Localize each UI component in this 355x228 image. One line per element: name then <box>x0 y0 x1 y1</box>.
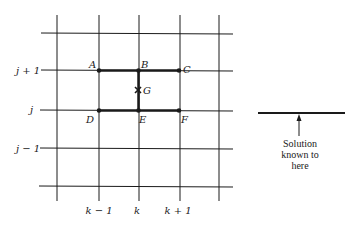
col-label-k-plus-1: k + 1 <box>164 205 191 216</box>
label-e: E <box>138 114 147 125</box>
grid-line-j-minus-2 <box>39 186 233 187</box>
label-f: F <box>180 114 189 125</box>
label-c: C <box>183 64 191 75</box>
node-a <box>97 68 102 73</box>
legend-line-2: known to <box>281 149 319 160</box>
col-label-k-minus-1: k − 1 <box>85 205 112 216</box>
label-a: A <box>88 59 96 70</box>
row-label-j-plus-1: j + 1 <box>14 65 40 76</box>
node-e <box>136 108 141 113</box>
col-label-k: k <box>134 205 140 216</box>
row-label-j-minus-1: j − 1 <box>14 143 40 154</box>
node-f <box>177 108 182 113</box>
grid-line-j-minus-1 <box>40 148 233 149</box>
node-d <box>97 108 102 113</box>
legend-line-3: here <box>291 160 309 171</box>
grid-line-j-plus-2 <box>41 33 233 34</box>
legend-line-1: Solution <box>283 138 317 149</box>
node-c <box>177 68 182 73</box>
arrow-up-icon <box>297 114 302 121</box>
label-d: D <box>85 114 94 125</box>
label-b: B <box>140 59 148 70</box>
row-label-j: j <box>28 104 33 115</box>
grid-diagram: A B C G D E F j + 1 j j − 1 k − 1 k k + … <box>0 0 355 228</box>
label-g: G <box>143 85 151 96</box>
